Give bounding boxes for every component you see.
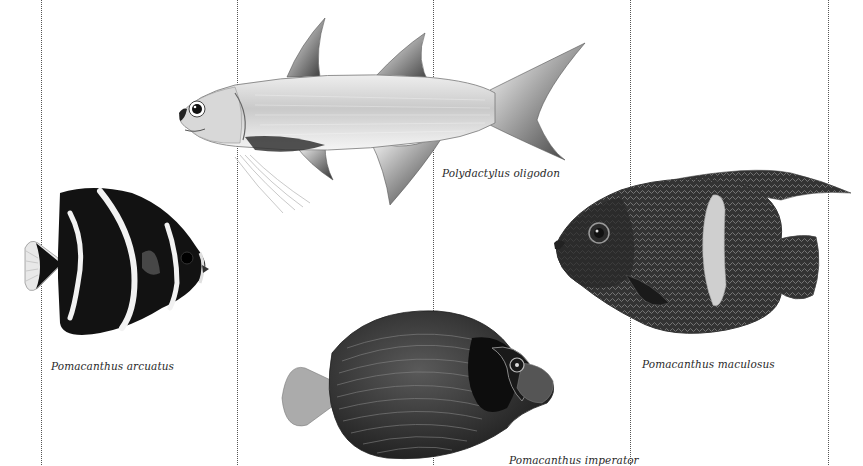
caption-pomacanthus-arcuatus: Pomacanthus arcuatus <box>51 360 174 372</box>
caption-polydactylus-oligodon: Polydactylus oligodon <box>442 167 560 179</box>
pomacanthus-arcuatus-illustration <box>22 183 212 338</box>
caption-pomacanthus-imperator: Pomacanthus imperator <box>509 454 639 466</box>
pomacanthus-imperator-illustration <box>277 303 562 463</box>
polydactylus-oligodon-illustration <box>175 15 595 215</box>
pomacanthus-maculosus-illustration <box>551 165 856 340</box>
caption-pomacanthus-maculosus: Pomacanthus maculosus <box>642 358 775 370</box>
